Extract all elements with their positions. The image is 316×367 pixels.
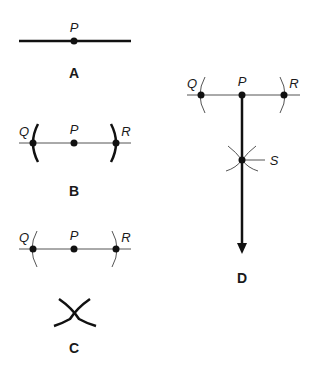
label-r: R bbox=[121, 230, 130, 245]
point-r bbox=[113, 246, 120, 253]
label-r: R bbox=[289, 76, 298, 91]
point-q bbox=[30, 246, 37, 253]
label-s: S bbox=[270, 153, 279, 168]
label-p: P bbox=[70, 122, 79, 137]
point-p bbox=[71, 140, 78, 147]
point-r bbox=[113, 140, 120, 147]
point-p bbox=[71, 38, 78, 45]
caption-a: A bbox=[69, 65, 79, 81]
caption-b: B bbox=[69, 183, 79, 199]
point-p bbox=[239, 92, 246, 99]
label-r: R bbox=[121, 124, 130, 139]
label-p: P bbox=[70, 20, 79, 35]
construction-diagram: P A Q P R B Q P R C bbox=[0, 0, 316, 367]
point-s bbox=[239, 157, 246, 164]
label-q: Q bbox=[19, 124, 29, 139]
point-q bbox=[30, 140, 37, 147]
panel-b: Q P R B bbox=[19, 122, 131, 199]
label-q: Q bbox=[187, 76, 197, 91]
point-r bbox=[281, 92, 288, 99]
label-p: P bbox=[238, 74, 247, 89]
panel-d: Q P R S D bbox=[187, 74, 300, 286]
panel-a: P A bbox=[19, 20, 131, 81]
caption-c: C bbox=[69, 340, 79, 356]
label-q: Q bbox=[19, 230, 29, 245]
caption-d: D bbox=[237, 270, 247, 286]
point-p bbox=[71, 246, 78, 253]
point-q bbox=[198, 92, 205, 99]
label-p: P bbox=[70, 228, 79, 243]
arrowhead-icon bbox=[237, 243, 247, 254]
panel-c: Q P R C bbox=[19, 228, 131, 356]
